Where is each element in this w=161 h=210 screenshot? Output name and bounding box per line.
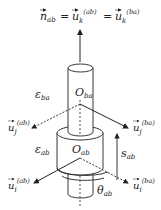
svg-text:=: = <box>103 10 112 23</box>
u-j-ab-label: uj(ab) <box>8 119 30 136</box>
u-i-ab-label: ui(ab) <box>8 177 30 194</box>
svg-text:uk(ba): uk(ba) <box>115 8 140 25</box>
s-ab-label: sab <box>121 147 136 161</box>
svg-text:=: = <box>60 10 69 23</box>
theta-ab-label: θab <box>97 184 113 198</box>
normal-vector-equation: nab = uk(ab) = uk(ba) <box>40 8 140 25</box>
u-j-ba-label: uj(ba) <box>133 119 155 136</box>
u-i-ba-label: ui(ba) <box>133 177 155 194</box>
n-symbol: n <box>40 10 47 23</box>
eps-ab-label: εab <box>35 143 50 157</box>
eps-ba-label: εba <box>35 88 50 102</box>
svg-text:uk(ab): uk(ab) <box>72 8 97 25</box>
svg-text:nab: nab <box>40 10 56 24</box>
joint-diagram: nab = uk(ab) = uk(ba) εba Oba <box>0 0 161 210</box>
upper-cylinder <box>68 64 93 136</box>
